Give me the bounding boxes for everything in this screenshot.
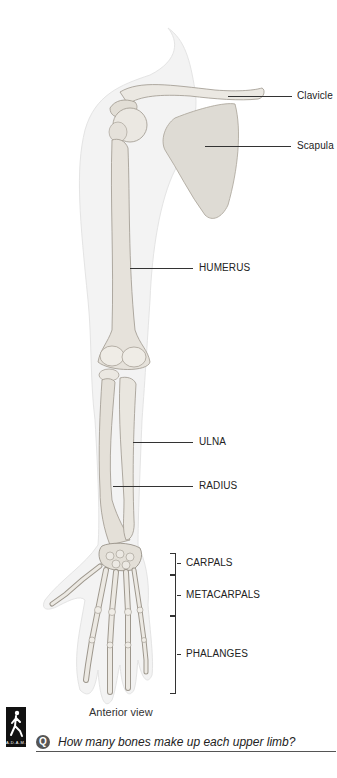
question-text: How many bones make up each upper limb? [58,735,295,749]
metacarpals-label: METACARPALS [186,589,260,600]
metacarpals-bracket-tick [177,595,181,596]
upper-limb-diagram: Clavicle Scapula HUMERUS ULNA RADIUS CAR… [0,0,337,778]
question-icon: Q [36,735,50,749]
arm-skeleton-illustration [0,0,337,778]
radius-label: RADIUS [199,480,237,491]
adam-logo: A.D.A.M. [6,707,26,747]
carpals-bracket-tick [177,563,181,564]
scapula-leader-line [205,146,291,147]
clavicle-leader-line [228,96,292,97]
clavicle-label: Clavicle [297,90,333,101]
metacarpals-bracket [170,575,176,616]
view-caption: Anterior view [89,706,153,718]
walking-figure-icon [6,709,26,741]
humerus-leader-line [130,268,193,269]
phalanges-label: PHALANGES [186,648,248,659]
radius-leader-line [113,486,193,487]
phalanges-bracket [170,616,176,694]
humerus-label: HUMERUS [199,262,250,273]
scapula-label: Scapula [297,140,334,151]
ulna-leader-line [133,442,193,443]
carpals-bracket [170,553,176,575]
question-underline [36,751,336,752]
phalanges-bracket-tick [177,654,181,655]
carpals-label: CARPALS [186,557,233,568]
adam-logo-text: A.D.A.M. [6,740,26,745]
ulna-label: ULNA [199,436,226,447]
